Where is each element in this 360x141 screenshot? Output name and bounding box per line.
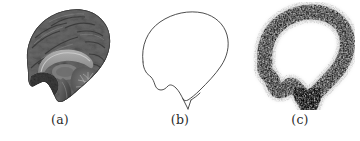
brain-cortex — [5, 2, 115, 110]
contour-lower — [143, 62, 183, 99]
panel-a-label: (a) — [51, 114, 69, 127]
brain-blurred-noisy-contour — [245, 2, 355, 110]
three-panel-brain-figure: (a) (b) — [0, 0, 360, 141]
contour-stroke — [143, 12, 229, 109]
panel-b: (b) — [120, 0, 240, 141]
panel-a: (a) — [0, 0, 120, 141]
panel-c-label: (c) — [291, 114, 308, 127]
noise-stem-blob — [299, 92, 316, 106]
panel-b-canvas — [120, 0, 240, 112]
panel-c: (c) — [240, 0, 360, 141]
brain-anatomical-image — [5, 2, 115, 110]
brain-outline-contour — [125, 2, 235, 110]
contour-upper — [143, 12, 229, 101]
panel-c-canvas — [240, 0, 360, 112]
panel-b-label: (b) — [171, 114, 189, 127]
cerebellum — [71, 67, 105, 99]
medulla — [62, 100, 72, 109]
brainstem-spike-right — [188, 100, 191, 109]
thalamus-core — [56, 67, 74, 77]
noise-band-group — [265, 12, 348, 109]
panel-a-canvas — [0, 0, 120, 112]
